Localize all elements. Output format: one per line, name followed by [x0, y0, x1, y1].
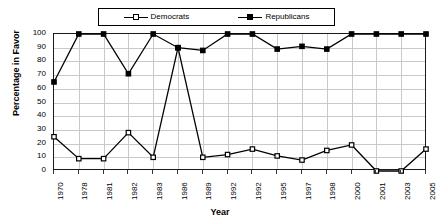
x-tick-mark	[53, 170, 54, 174]
x-tick-label: 2005	[429, 182, 437, 200]
x-tick-mark	[227, 170, 228, 174]
x-tick-mark	[425, 170, 426, 174]
x-tick-mark	[127, 170, 128, 174]
x-tick-label: 1992	[255, 182, 263, 200]
x-tick-mark	[375, 170, 376, 174]
x-tick-mark	[276, 170, 277, 174]
x-axis-tick-labels: 1970197819811982198319861989199219921995…	[0, 0, 440, 224]
x-tick-mark	[177, 170, 178, 174]
x-tick-label: 1970	[57, 182, 65, 200]
x-tick-label: 1992	[230, 182, 238, 200]
x-tick-mark	[103, 170, 104, 174]
x-axis-title: Year	[0, 207, 440, 217]
x-tick-mark	[152, 170, 153, 174]
x-tick-mark	[202, 170, 203, 174]
x-tick-label: 1982	[131, 182, 139, 200]
x-tick-mark	[78, 170, 79, 174]
x-tick-mark	[400, 170, 401, 174]
x-tick-mark	[251, 170, 252, 174]
x-tick-label: 1995	[280, 182, 288, 200]
x-tick-label: 1989	[205, 182, 213, 200]
x-tick-mark	[351, 170, 352, 174]
x-tick-label: 2003	[404, 182, 412, 200]
x-tick-label: 1983	[156, 182, 164, 200]
x-tick-label: 1998	[329, 182, 337, 200]
x-tick-mark	[301, 170, 302, 174]
x-tick-label: 1978	[81, 182, 89, 200]
x-tick-label: 1981	[106, 182, 114, 200]
x-tick-label: 2001	[379, 182, 387, 200]
x-tick-label: 1986	[181, 182, 189, 200]
x-tick-label: 1997	[305, 182, 313, 200]
chart-figure: Democrats Republicans Percentage in Favo…	[0, 0, 440, 224]
x-tick-mark	[326, 170, 327, 174]
x-tick-label: 2000	[354, 182, 362, 200]
